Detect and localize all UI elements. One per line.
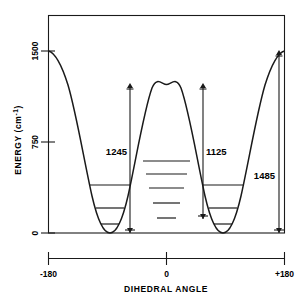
x-tick-label-zero: 0 bbox=[164, 269, 169, 279]
chart-canvas: 1500 750 0 ENERGY (cm-1) -180 0 +180 DIH… bbox=[0, 0, 300, 302]
y-tick-label-750: 750 bbox=[30, 135, 40, 149]
y-axis-title: ENERGY (cm-1) bbox=[11, 105, 23, 175]
label-1485: 1485 bbox=[254, 170, 276, 181]
x-axis-title: DIHEDRAL ANGLE bbox=[124, 284, 208, 294]
x-tick-label-plus180: +180 bbox=[275, 269, 294, 279]
x-tick-label-minus180: -180 bbox=[40, 269, 57, 279]
y-axis-title-tail: ) bbox=[13, 105, 23, 108]
plot-frame bbox=[49, 16, 285, 234]
svg-text:ENERGY (cm-1): ENERGY (cm-1) bbox=[11, 105, 23, 175]
potential-energy-chart: 1500 750 0 ENERGY (cm-1) -180 0 +180 DIH… bbox=[0, 0, 300, 302]
y-tick-label-1500: 1500 bbox=[30, 41, 40, 60]
y-tick-label-0: 0 bbox=[30, 230, 40, 235]
y-axis-title-exponent: -1 bbox=[11, 109, 18, 116]
label-1245: 1245 bbox=[106, 146, 128, 157]
label-1125: 1125 bbox=[206, 146, 227, 157]
y-axis-title-main: ENERGY (cm bbox=[13, 116, 23, 175]
